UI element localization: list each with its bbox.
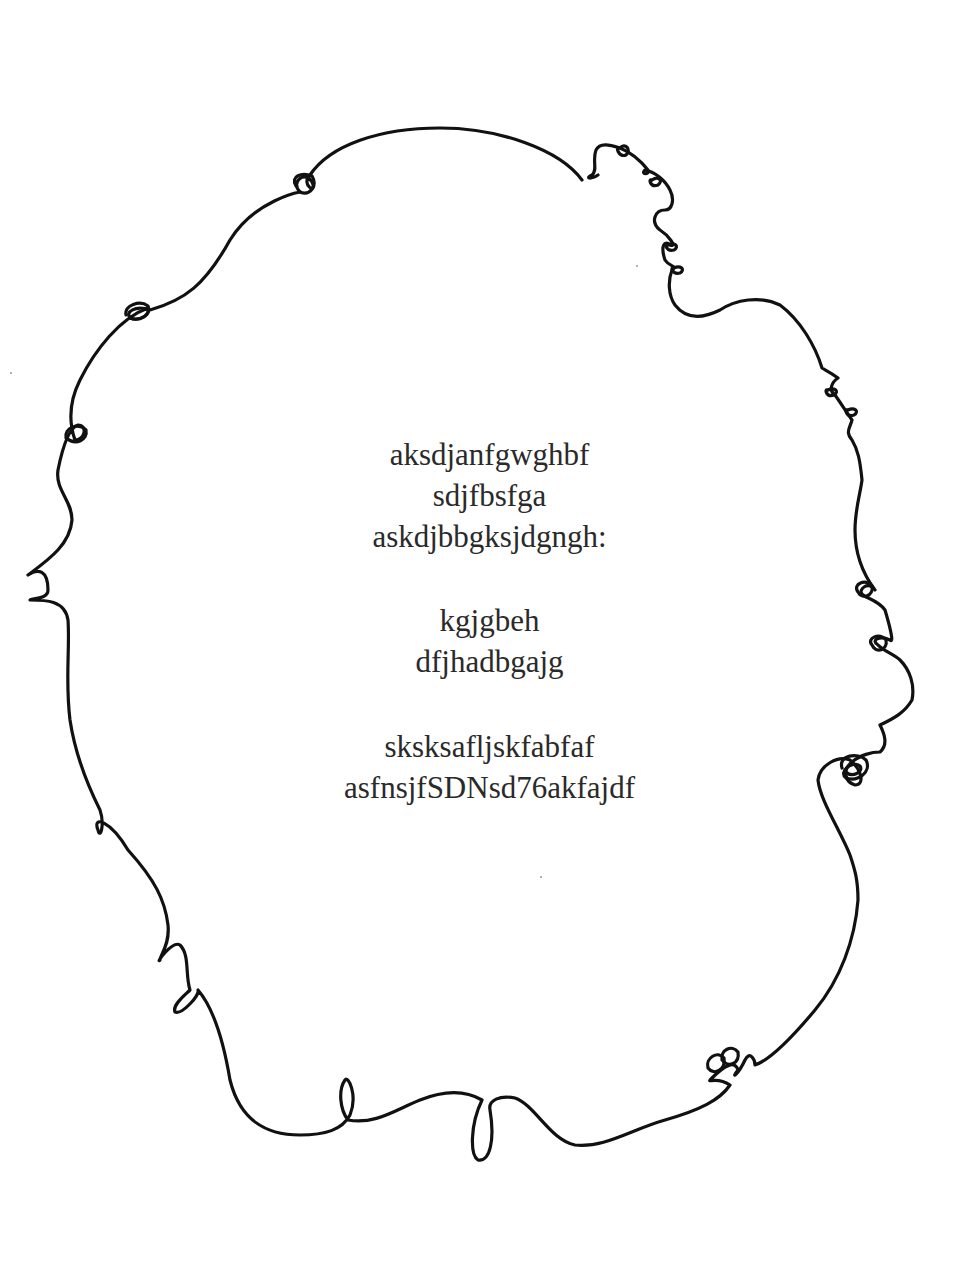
text-line: aksdjanfgwghbf — [0, 434, 979, 475]
paper-speck — [540, 876, 542, 878]
text-line: sksksafljskfabfaf — [0, 726, 979, 767]
text-line: sdjfbsfga — [0, 475, 979, 516]
text-line: asfnsjfSDNsd76akfajdf — [0, 767, 979, 808]
stanza-1: aksdjanfgwghbf sdjfbsfga askdjbbgksjdgng… — [0, 434, 979, 557]
text-line: kgjgbeh — [0, 600, 979, 641]
stanza-2: kgjgbeh dfjhadbgajg — [0, 600, 979, 682]
page: aksdjanfgwghbf sdjfbsfga askdjbbgksjdgng… — [0, 0, 979, 1284]
paper-speck — [636, 265, 638, 267]
stanza-3: sksksafljskfabfaf asfnsjfSDNsd76akfajdf — [0, 726, 979, 808]
paper-speck — [10, 372, 12, 374]
text-line: askdjbbgksjdgngh: — [0, 516, 979, 557]
text-line: dfjhadbgajg — [0, 641, 979, 682]
